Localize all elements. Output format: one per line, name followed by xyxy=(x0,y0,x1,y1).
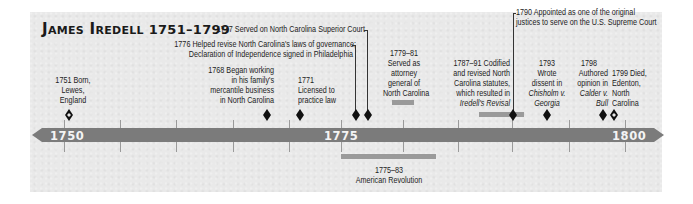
event-text: North xyxy=(612,89,654,99)
diamond-icon xyxy=(509,109,517,121)
event-text: dissent in xyxy=(529,79,566,89)
event-text: England xyxy=(53,96,93,106)
context-text: 1775–83 xyxy=(355,166,424,176)
event-text: Carolina statutes, xyxy=(448,79,510,89)
diamond-icon xyxy=(352,109,360,121)
event-codified-label: 1787–91 Codified and revised North Carol… xyxy=(448,59,510,109)
event-text: Served as xyxy=(383,59,425,69)
leader-line xyxy=(355,45,356,111)
event-text: 1776 Helped revise North Carolina's laws… xyxy=(174,40,353,50)
event-attorney-general-label: 1779–81 Served as attorney general of No… xyxy=(383,49,425,99)
event-text: 1768 Began working xyxy=(204,66,274,76)
axis-label-1750: 1750 xyxy=(50,129,84,143)
event-text: 1787–91 Codified xyxy=(448,59,510,69)
diamond-icon xyxy=(599,109,607,121)
diamond-icon xyxy=(364,109,372,121)
event-text: practice law xyxy=(298,96,342,106)
context-text: American Revolution xyxy=(355,176,424,186)
arrow-left-icon xyxy=(32,128,42,142)
diamond-icon xyxy=(296,109,304,121)
event-text: which resulted in xyxy=(448,89,510,99)
event-calder-label: 1798 Authored opinion in Calder v. Bull xyxy=(570,59,608,109)
event-licensed-label: 1771 Licensed to practice law xyxy=(298,76,342,106)
open-diamond-icon xyxy=(610,109,618,121)
event-text: attorney xyxy=(383,69,425,79)
event-text: 1751 Born, xyxy=(53,76,93,86)
event-text: mercantile business xyxy=(204,86,274,96)
event-born-label: 1751 Born, Lewes, England xyxy=(53,76,93,106)
title-name: James Iredell xyxy=(42,20,144,38)
event-text-italic: Georgia xyxy=(534,99,560,108)
leader-line xyxy=(364,30,368,31)
event-text: 1771 xyxy=(298,76,342,86)
span-bar-attorney-general xyxy=(392,100,414,105)
event-text-italic: Chisholm v. xyxy=(529,89,566,98)
span-bar-codified xyxy=(479,112,524,117)
event-superior-court-label: 1777 Served on North Carolina Superior C… xyxy=(202,25,365,35)
event-chisholm-label: 1793 Wrote dissent in Chisholm v. Georgi… xyxy=(529,59,566,109)
event-supreme-court-label: 1790 Appointed as one of the original ju… xyxy=(516,8,657,28)
event-text: Carolina xyxy=(612,99,654,109)
leader-line xyxy=(513,13,516,14)
event-text-italic: Calder v. xyxy=(580,89,608,98)
event-died-label: 1799 Died, Edenton, North Carolina xyxy=(612,69,654,109)
event-text-italic: Bull xyxy=(596,99,608,108)
span-bar-revolution xyxy=(341,154,436,159)
event-text: opinion in xyxy=(570,79,608,89)
leader-line xyxy=(513,13,514,111)
diamond-icon xyxy=(263,109,271,121)
axis-label-1775: 1775 xyxy=(324,129,358,143)
event-text: 1777 Served on North Carolina Superior C… xyxy=(202,25,365,35)
event-text: and revised North xyxy=(448,69,510,79)
event-text: in his family's xyxy=(204,76,274,86)
event-text: Edenton, xyxy=(612,79,654,89)
axis-label-1800: 1800 xyxy=(612,129,646,143)
event-text: 1779–81 xyxy=(383,49,425,59)
diamond-icon xyxy=(543,109,551,121)
arrow-right-icon xyxy=(654,128,664,142)
event-text: Licensed to xyxy=(298,86,342,96)
event-mercantile-label: 1768 Began working in his family's merca… xyxy=(204,66,274,106)
context-revolution-label: 1775–83 American Revolution xyxy=(355,166,424,186)
timeline-background xyxy=(30,12,662,192)
event-text: Declaration of Independence signed in Ph… xyxy=(174,50,353,60)
event-text: Wrote xyxy=(529,69,566,79)
leader-line xyxy=(367,30,368,111)
event-revise-laws-label: 1776 Helped revise North Carolina's laws… xyxy=(174,40,353,60)
event-text: justices to serve on the U.S. Supreme Co… xyxy=(516,18,657,28)
leader-line xyxy=(352,45,356,46)
event-text: 1798 xyxy=(570,59,608,69)
event-text: 1793 xyxy=(529,59,566,69)
open-diamond-icon xyxy=(65,109,73,121)
event-text: 1799 Died, xyxy=(612,69,654,79)
event-text: Lewes, xyxy=(53,86,93,96)
event-text: general of xyxy=(383,79,425,89)
event-text: 1790 Appointed as one of the original xyxy=(516,8,657,18)
event-text: Authored xyxy=(570,69,608,79)
event-text: North Carolina xyxy=(383,89,425,99)
event-text-italic: Iredell's Revisal xyxy=(460,99,510,108)
event-text: in North Carolina xyxy=(204,96,274,106)
